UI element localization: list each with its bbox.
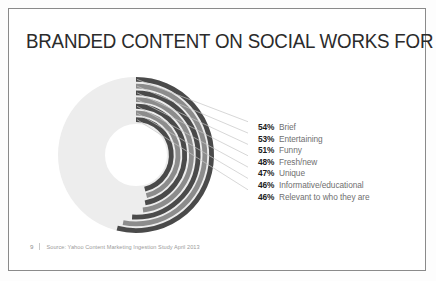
legend-label: Entertaining	[279, 134, 323, 146]
list-item: 54% Brief	[258, 122, 418, 134]
legend-percent: 54%	[258, 122, 279, 134]
legend-label: Brief	[279, 122, 296, 134]
legend-percent: 53%	[258, 134, 279, 146]
legend-percent: 47%	[258, 168, 279, 180]
legend-label: Fresh/new	[279, 157, 317, 169]
legend-label: Funny	[279, 145, 302, 157]
list-item: 48% Fresh/new	[258, 157, 418, 169]
list-item: 46% Relevant to who they are	[258, 192, 418, 204]
page-number: 9	[30, 243, 33, 250]
slide: BRANDED CONTENT ON SOCIAL WORKS FOR MILL…	[0, 0, 436, 281]
chart-legend: 54% Brief 53% Entertaining 51% Funny 48%…	[258, 122, 418, 203]
legend-percent: 51%	[258, 145, 279, 157]
slide-footer: 9 Source: Yahoo Content Marketing Ingest…	[30, 243, 200, 250]
footer-divider	[39, 243, 40, 250]
legend-percent: 46%	[258, 192, 279, 204]
legend-label: Informative/educational	[279, 180, 364, 192]
page-title: BRANDED CONTENT ON SOCIAL WORKS FOR MILL…	[26, 30, 400, 56]
list-item: 46% Informative/educational	[258, 180, 418, 192]
source-note: Source: Yahoo Content Marketing Ingestio…	[46, 244, 199, 250]
radial-bar-chart	[48, 68, 248, 243]
list-item: 53% Entertaining	[258, 134, 418, 146]
legend-label: Unique	[279, 168, 305, 180]
list-item: 51% Funny	[258, 145, 418, 157]
legend-percent: 48%	[258, 157, 279, 169]
chart-svg	[48, 68, 248, 243]
list-item: 47% Unique	[258, 168, 418, 180]
legend-label: Relevant to who they are	[279, 192, 370, 204]
legend-percent: 46%	[258, 180, 279, 192]
